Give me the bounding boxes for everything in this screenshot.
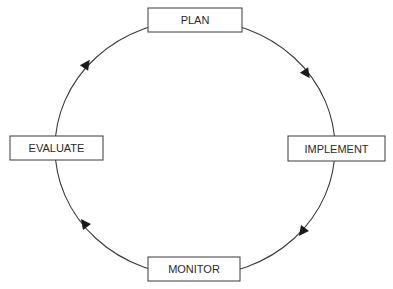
node-evaluate-label: EVALUATE: [29, 142, 85, 154]
node-plan-label: PLAN: [181, 14, 210, 26]
node-implement-label: IMPLEMENT: [304, 143, 368, 155]
arrowhead-implement-to-monitor: [295, 225, 309, 239]
node-monitor: MONITOR: [148, 257, 240, 281]
cycle-diagram: PLAN IMPLEMENT MONITOR EVALUATE: [0, 0, 393, 289]
node-plan: PLAN: [148, 8, 242, 32]
arrowhead-monitor-to-evaluate: [77, 216, 91, 230]
node-monitor-label: MONITOR: [168, 263, 220, 275]
arrowhead-plan-to-implement: [300, 67, 314, 81]
node-evaluate: EVALUATE: [10, 136, 103, 160]
arrowhead-evaluate-to-plan: [80, 57, 94, 71]
node-implement: IMPLEMENT: [288, 136, 385, 161]
